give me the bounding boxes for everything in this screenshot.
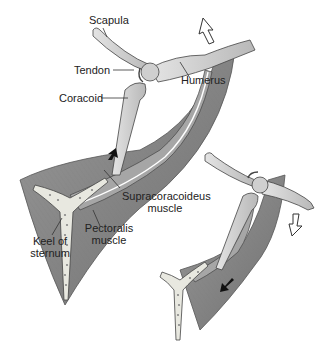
upstroke-direction-arrow <box>199 18 214 44</box>
label-supracoracoideus-muscle: Supracoracoideus muscle <box>122 190 208 214</box>
label-pectoralis-muscle: Pectoralis muscle <box>84 222 134 246</box>
downstroke-panel <box>160 153 314 340</box>
wing-stroke-diagram: Scapula Tendon Humerus Coracoid Supracor… <box>0 0 333 356</box>
scapula-bone-lower <box>205 153 255 186</box>
label-pectoralis-line2: muscle <box>84 234 134 246</box>
tendon-lower <box>248 172 258 178</box>
label-supracoracoideus-line2: muscle <box>122 202 208 214</box>
label-coracoid: Coracoid <box>59 92 103 104</box>
label-tendon: Tendon <box>74 64 110 76</box>
diagram-artwork <box>0 0 333 356</box>
label-scapula: Scapula <box>89 14 129 26</box>
downstroke-direction-arrow <box>289 214 302 236</box>
shoulder-joint-upper <box>141 63 159 81</box>
label-keel-line1: Keel of <box>28 235 72 247</box>
label-keel-of-sternum: Keel of sternum <box>28 235 72 259</box>
label-keel-line2: sternum <box>28 247 72 259</box>
label-humerus: Humerus <box>181 74 226 86</box>
shoulder-joint-lower <box>252 177 268 193</box>
label-pectoralis-line1: Pectoralis <box>84 222 134 234</box>
label-supracoracoideus-line1: Supracoracoideus <box>122 190 208 202</box>
